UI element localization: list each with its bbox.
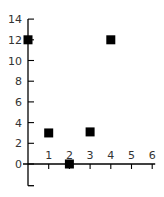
y-tick-label: 10 bbox=[8, 55, 22, 68]
data-point-marker bbox=[106, 35, 115, 44]
x-tick-label: 3 bbox=[87, 149, 94, 162]
y-tick-label: 2 bbox=[15, 137, 22, 150]
data-point-marker bbox=[24, 35, 33, 44]
y-tick-label: 4 bbox=[15, 117, 22, 130]
x-tick-label: 4 bbox=[107, 149, 114, 162]
x-axis-ticks: 123456 bbox=[45, 149, 156, 169]
y-tick-label: 0 bbox=[15, 158, 22, 171]
x-tick-label: 6 bbox=[149, 149, 156, 162]
y-tick-label: 6 bbox=[15, 96, 22, 109]
data-point-marker bbox=[44, 128, 53, 137]
data-point-marker bbox=[86, 127, 95, 136]
y-tick-label: 8 bbox=[15, 75, 22, 88]
x-tick-label: 1 bbox=[45, 149, 52, 162]
y-tick-label: 12 bbox=[8, 34, 22, 47]
data-point-marker bbox=[65, 160, 74, 169]
scatter-chart: 02468101214 123456 bbox=[0, 0, 164, 197]
y-tick-label: 14 bbox=[8, 13, 22, 26]
x-tick-label: 5 bbox=[128, 149, 135, 162]
